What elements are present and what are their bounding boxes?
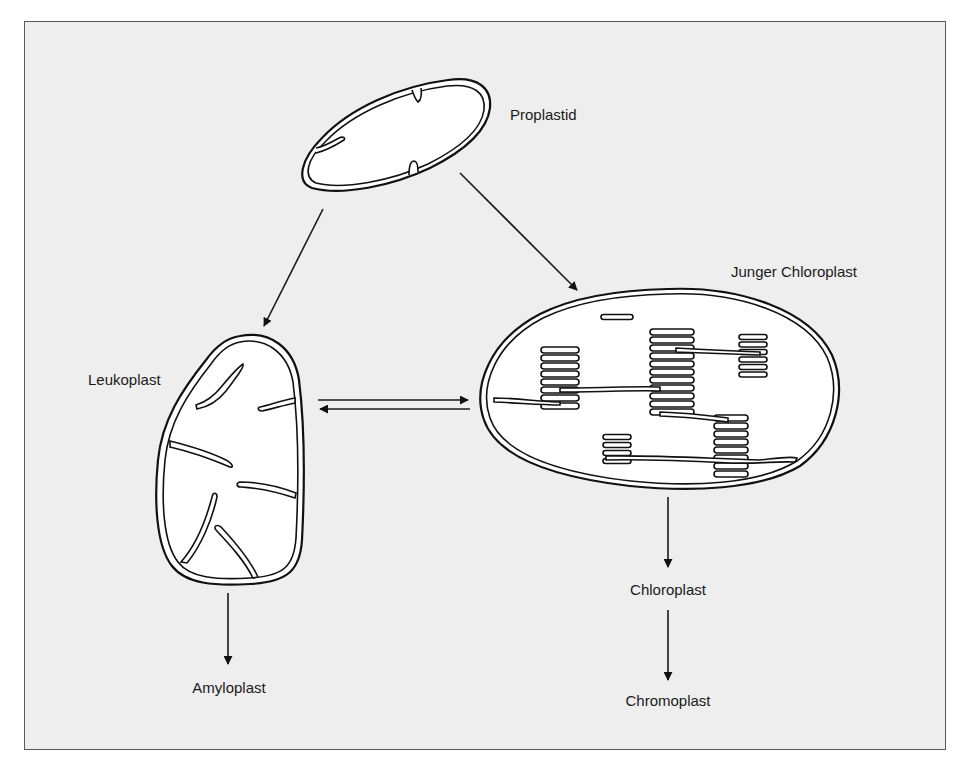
thylakoid-disc xyxy=(541,363,579,369)
thylakoid-disc xyxy=(601,315,633,320)
thylakoid-disc xyxy=(650,369,694,375)
thylakoid-disc xyxy=(739,372,767,377)
thylakoid-disc xyxy=(739,342,767,347)
thylakoid-disc xyxy=(650,393,694,399)
young-chloroplast-label: Junger Chloroplast xyxy=(731,263,858,280)
young-chloroplast-organelle xyxy=(480,289,839,489)
thylakoid-disc xyxy=(541,379,579,385)
arrow-proplastid-to-leukoplast xyxy=(264,209,323,326)
thylakoid-disc xyxy=(650,337,694,343)
thylakoid-disc xyxy=(714,439,748,445)
stroma-lamella xyxy=(560,387,660,392)
thylakoid-disc xyxy=(541,355,579,361)
thylakoid-disc xyxy=(650,353,694,359)
thylakoid-disc xyxy=(650,329,694,335)
thylakoid-disc xyxy=(650,361,694,367)
thylakoid-disc xyxy=(739,365,767,370)
thylakoid-disc xyxy=(603,451,631,456)
chromoplast-label: Chromoplast xyxy=(625,692,711,709)
thylakoid-disc xyxy=(739,335,767,340)
leukoplast-label: Leukoplast xyxy=(88,371,161,388)
proplastid-label: Proplastid xyxy=(510,106,577,123)
leukoplast-organelle xyxy=(156,335,303,585)
thylakoid-disc xyxy=(541,347,579,353)
thylakoid-disc xyxy=(541,371,579,377)
chloroplast-label: Chloroplast xyxy=(630,581,707,598)
plastid-diagram: Proplastid Leukoplast Junger Chloroplast… xyxy=(0,0,964,771)
thylakoid-disc xyxy=(714,471,748,477)
thylakoid-disc xyxy=(603,435,631,440)
thylakoid-disc xyxy=(603,443,631,448)
thylakoid-disc xyxy=(714,423,748,429)
thylakoid-disc xyxy=(650,377,694,383)
thylakoid-disc xyxy=(650,401,694,407)
thylakoid-disc xyxy=(714,431,748,437)
arrow-proplastid-to-young-chloroplast xyxy=(460,173,577,290)
thylakoid-disc xyxy=(541,395,579,401)
thylakoid-disc xyxy=(739,357,767,362)
amyloplast-label: Amyloplast xyxy=(192,679,266,696)
thylakoid-disc xyxy=(714,447,748,453)
